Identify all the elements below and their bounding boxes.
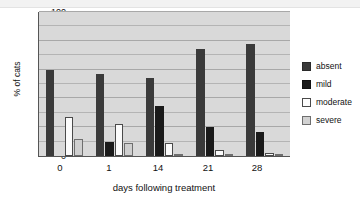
- x-tick-21: 21: [188, 162, 228, 173]
- bar-severe-14: [174, 154, 183, 156]
- x-tick-28: 28: [237, 162, 277, 173]
- bar-group-0: [39, 12, 89, 156]
- legend-swatch-absent-icon: [302, 62, 311, 71]
- bar-mild-28: [256, 132, 265, 156]
- bar-group-14: [139, 12, 189, 156]
- bar-moderate-21: [215, 150, 224, 156]
- x-axis-label: days following treatment: [38, 182, 290, 193]
- bar-absent-14: [146, 78, 155, 156]
- bar-moderate-14: [165, 143, 174, 156]
- legend-label-mild: mild: [316, 79, 332, 89]
- legend-label-absent: absent: [316, 61, 342, 71]
- bar-mild-1: [105, 142, 114, 156]
- x-tick-0: 0: [40, 162, 80, 173]
- bar-severe-1: [124, 143, 133, 156]
- legend-swatch-mild-icon: [302, 80, 311, 89]
- legend-swatch-severe-icon: [302, 116, 311, 125]
- bar-severe-21: [225, 154, 234, 156]
- legend-swatch-moderate-icon: [302, 98, 311, 107]
- plot-area: [38, 12, 290, 157]
- legend-label-severe: severe: [316, 115, 342, 125]
- bar-group-28: [240, 12, 290, 156]
- bar-moderate-28: [265, 153, 274, 156]
- bar-mild-14: [155, 106, 164, 156]
- bar-absent-0: [46, 70, 55, 156]
- x-tick-14: 14: [138, 162, 178, 173]
- legend-label-moderate: moderate: [316, 97, 352, 107]
- legend-item-severe: severe: [302, 111, 360, 129]
- bar-moderate-0: [65, 117, 74, 156]
- bar-group-21: [190, 12, 240, 156]
- bar-absent-21: [196, 49, 205, 156]
- bar-group-1: [89, 12, 139, 156]
- bar-mild-21: [206, 127, 215, 156]
- legend-item-mild: mild: [302, 75, 360, 93]
- bar-chart-figure: % of cats 100 80 60 40 20 0 0 1 14 21 28…: [0, 0, 360, 212]
- bar-severe-28: [275, 154, 284, 156]
- x-tick-1: 1: [89, 162, 129, 173]
- legend-item-moderate: moderate: [302, 93, 360, 111]
- legend-item-absent: absent: [302, 57, 360, 75]
- bar-severe-0: [74, 139, 83, 156]
- bar-moderate-1: [115, 124, 124, 156]
- bar-groups: [39, 12, 290, 156]
- legend: absent mild moderate severe: [302, 57, 360, 129]
- bar-absent-28: [246, 44, 255, 156]
- bar-absent-1: [96, 74, 105, 156]
